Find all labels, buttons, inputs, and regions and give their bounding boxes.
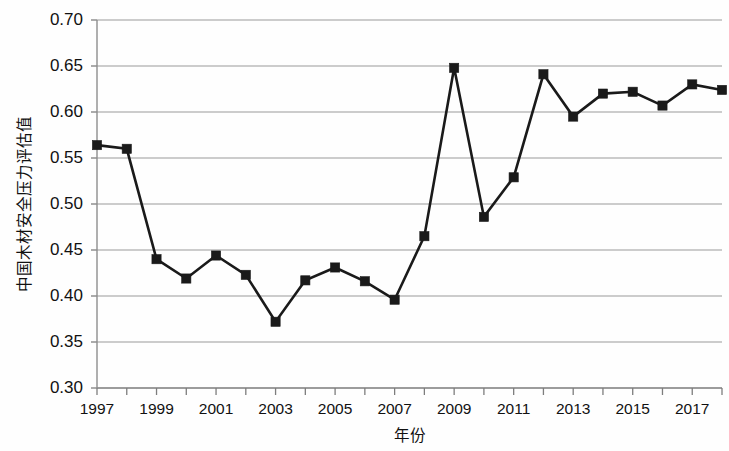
data-point-marker — [92, 141, 101, 150]
x-axis-title: 年份 — [394, 427, 426, 444]
y-tick-label: 0.40 — [50, 286, 83, 305]
x-tick-marks-group — [97, 388, 722, 395]
data-point-marker — [360, 277, 369, 286]
y-tick-label: 0.35 — [50, 332, 83, 351]
data-point-marker — [390, 295, 399, 304]
y-tick-label: 0.70 — [50, 10, 83, 29]
y-tick-marks-group — [91, 20, 97, 388]
data-point-marker — [598, 89, 607, 98]
y-tick-label: 0.30 — [50, 378, 83, 397]
data-point-marker — [717, 85, 726, 94]
data-point-marker — [539, 70, 548, 79]
data-point-marker — [479, 212, 488, 221]
line-chart: 0.700.650.600.550.500.450.400.350.30 199… — [0, 0, 729, 451]
x-tick-label: 2017 — [675, 400, 709, 417]
data-point-marker — [271, 317, 280, 326]
x-tick-label: 2015 — [615, 400, 649, 417]
data-point-marker — [182, 274, 191, 283]
x-tick-label: 2005 — [318, 400, 352, 417]
data-point-marker — [450, 63, 459, 72]
gridlines-group — [97, 20, 722, 388]
x-tick-label: 2007 — [377, 400, 411, 417]
y-tick-label: 0.55 — [50, 148, 83, 167]
data-point-marker — [688, 80, 697, 89]
chart-container: 0.700.650.600.550.500.450.400.350.30 199… — [0, 0, 729, 451]
data-point-marker — [509, 173, 518, 182]
y-tick-label: 0.50 — [50, 194, 83, 213]
x-tick-labels-group: 1997199920012003200520072009201120132015… — [80, 400, 710, 417]
y-tick-label: 0.60 — [50, 102, 83, 121]
y-tick-label: 0.65 — [50, 56, 83, 75]
data-point-marker — [331, 263, 340, 272]
data-point-marker — [420, 232, 429, 241]
y-tick-labels-group: 0.700.650.600.550.500.450.400.350.30 — [50, 10, 83, 397]
data-point-marker — [241, 270, 250, 279]
data-point-marker — [658, 101, 667, 110]
data-point-marker — [152, 255, 161, 264]
x-tick-label: 1997 — [80, 400, 114, 417]
y-tick-label: 0.45 — [50, 240, 83, 259]
x-tick-label: 1999 — [139, 400, 173, 417]
data-point-marker — [301, 276, 310, 285]
data-point-markers-group — [92, 63, 726, 326]
x-tick-label: 2011 — [497, 400, 530, 417]
data-series-line — [97, 68, 722, 322]
data-point-marker — [122, 144, 131, 153]
x-tick-label: 2013 — [556, 400, 590, 417]
data-point-marker — [211, 251, 220, 260]
y-axis-title: 中国木材安全压力评估值 — [16, 116, 33, 292]
x-tick-label: 2009 — [437, 400, 471, 417]
x-tick-label: 2001 — [199, 400, 233, 417]
x-tick-label: 2003 — [258, 400, 292, 417]
data-point-marker — [569, 112, 578, 121]
data-point-marker — [628, 87, 637, 96]
